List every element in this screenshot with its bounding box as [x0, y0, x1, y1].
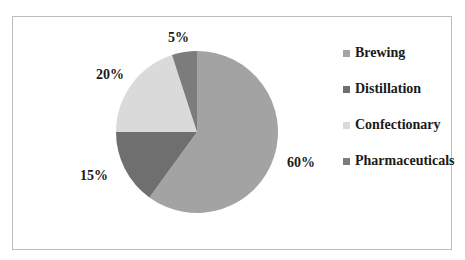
legend-label: Pharmaceuticals — [355, 153, 455, 169]
legend-item-brewing: Brewing — [343, 45, 405, 61]
legend-label: Brewing — [355, 45, 405, 61]
label-pharmaceuticals: 5% — [168, 30, 189, 46]
label-confectionary: 20% — [96, 67, 124, 83]
label-brewing: 60% — [287, 155, 315, 171]
label-distillation: 15% — [80, 168, 108, 184]
legend-label: Confectionary — [355, 117, 441, 133]
confectionary-swatch-icon — [343, 122, 350, 129]
pharmaceuticals-swatch-icon — [343, 158, 350, 165]
legend-label: Distillation — [355, 81, 421, 97]
legend-item-pharmaceuticals: Pharmaceuticals — [343, 153, 455, 169]
legend-item-confectionary: Confectionary — [343, 117, 441, 133]
distillation-swatch-icon — [343, 86, 350, 93]
legend-item-distillation: Distillation — [343, 81, 421, 97]
brewing-swatch-icon — [343, 50, 350, 57]
